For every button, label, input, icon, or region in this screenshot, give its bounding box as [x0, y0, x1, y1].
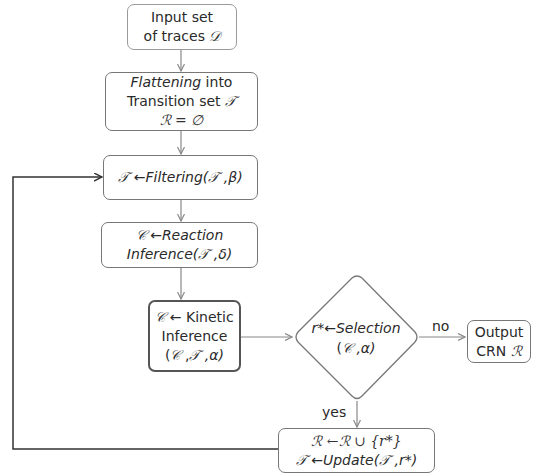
- filter-func: Filtering(: [146, 169, 209, 185]
- input-traces-node: Input set of traces 𝒟: [127, 4, 237, 50]
- kinetic-arg1: 𝒞: [170, 347, 180, 363]
- selection-arrow: ←: [324, 320, 336, 336]
- update-lhs: 𝒯: [296, 452, 307, 468]
- kinetic-inference-node: 𝒞 ← Kinetic Inference (𝒞 ,𝒯 ,α): [148, 300, 241, 372]
- selection-node: r*←Selection (𝒞 ,α): [294, 275, 418, 400]
- edges-layer: [0, 0, 541, 476]
- output-line2: CRN: [476, 343, 510, 359]
- reaction-rest: ,δ): [209, 246, 232, 262]
- update-node: ℛ ←ℛ ∪ {r*} 𝒯 ←Update(𝒯 ,r*): [278, 428, 435, 473]
- kinetic-rest: ,α): [200, 347, 224, 363]
- filter-rest: ,β): [219, 169, 242, 185]
- flattening-word: Flattening: [131, 74, 202, 90]
- output-crn-node: Output CRN ℛ: [467, 320, 531, 363]
- filter-arrow: ←: [129, 169, 145, 185]
- reaction-inference-node: 𝒞 ←Reaction Inference(𝒯 ,δ): [101, 222, 258, 268]
- traces-symbol: 𝒟: [209, 28, 220, 44]
- input-line1: Input set: [151, 9, 213, 25]
- selection-lhs: r*: [311, 320, 324, 336]
- transition-set-symbol: 𝒯: [225, 93, 236, 109]
- selection-func: Selection: [336, 320, 401, 336]
- flatten-line3: ℛ = ∅: [160, 111, 204, 130]
- reaction-func: Reaction: [162, 227, 223, 243]
- flatten-line1-rest: into: [201, 74, 232, 90]
- input-line2: of traces: [144, 28, 210, 44]
- edge-label-yes: yes: [322, 404, 346, 420]
- crn-symbol: ℛ: [511, 343, 522, 359]
- update-line1: ℛ ←ℛ ∪ {r*}: [311, 432, 401, 451]
- reaction-arg1: 𝒯: [198, 246, 209, 262]
- selection-arg1: 𝒞: [342, 340, 352, 356]
- update-rest: ,r*): [390, 452, 417, 468]
- update-arrow: ←: [307, 452, 323, 468]
- reaction-lhs: 𝒞: [136, 227, 146, 243]
- kinetic-line1: ← Kinetic: [165, 309, 233, 325]
- update-arg1: 𝒯: [379, 452, 390, 468]
- kinetic-line2: Inference: [162, 327, 228, 346]
- filtering-node: 𝒯 ←Filtering(𝒯 ,β): [103, 155, 258, 200]
- filter-lhs: 𝒯: [118, 169, 129, 185]
- reaction-line2: Inference(: [127, 246, 199, 262]
- reaction-arrow: ←: [146, 227, 162, 243]
- kinetic-arg2: 𝒯: [189, 347, 200, 363]
- output-line1: Output: [475, 323, 524, 342]
- selection-rest: ,α): [352, 340, 376, 356]
- edge-label-no: no: [432, 318, 449, 334]
- flatten-line2: Transition set: [127, 93, 225, 109]
- update-func: Update(: [323, 452, 379, 468]
- kinetic-lhs: 𝒞: [155, 309, 165, 325]
- flattening-node: Flattening into Transition set 𝒯 ℛ = ∅: [105, 72, 258, 131]
- filter-arg1: 𝒯: [208, 169, 219, 185]
